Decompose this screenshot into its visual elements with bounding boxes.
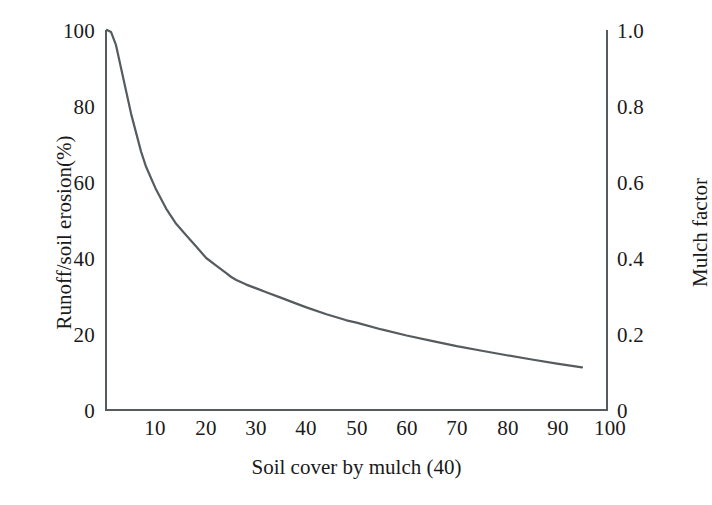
x-tick-70: 70 [446, 418, 467, 439]
x-axis-title: Soil cover by mulch (40) [105, 455, 608, 480]
y-tick-left-60: 60 [74, 173, 95, 194]
y-tick-left-20: 20 [74, 325, 95, 346]
y-axis-left-line [105, 30, 107, 411]
x-tick-100: 100 [594, 418, 626, 439]
x-tick-20: 20 [195, 418, 216, 439]
x-tick-10: 10 [144, 418, 165, 439]
y-tick-right-0-2: 0.2 [617, 325, 644, 346]
y-axis-right-line [606, 30, 608, 411]
x-tick-50: 50 [346, 418, 367, 439]
x-tick-60: 60 [396, 418, 417, 439]
y-axis-right-title: Mulch factor [688, 103, 712, 363]
y-tick-right-0-8: 0.8 [617, 97, 644, 118]
series-runoff-soil-erosion-curve [107, 30, 582, 367]
y-axis-left-title: Runoff/soil erosion(%) [52, 103, 77, 363]
x-axis-line [105, 409, 608, 411]
x-tick-40: 40 [295, 418, 316, 439]
x-tick-30: 30 [245, 418, 266, 439]
y-tick-left-80: 80 [74, 97, 95, 118]
y-tick-right-0-4: 0.4 [617, 249, 644, 270]
y-tick-left-40: 40 [74, 249, 95, 270]
y-tick-right-0-6: 0.6 [617, 173, 644, 194]
x-tick-80: 80 [497, 418, 518, 439]
y-tick-right-1-0: 1.0 [617, 21, 644, 42]
y-tick-left-0: 0 [84, 401, 95, 422]
x-tick-90: 90 [547, 418, 568, 439]
y-tick-left-100: 100 [63, 21, 95, 42]
